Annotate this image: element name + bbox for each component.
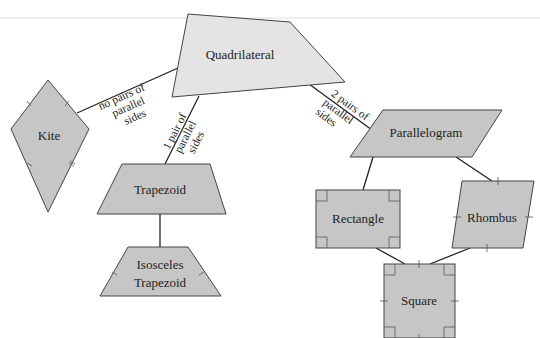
parallelogram-label: Parallelogram bbox=[390, 125, 463, 140]
node-parallelogram: Parallelogram bbox=[350, 110, 502, 157]
node-kite: Kite bbox=[11, 80, 89, 212]
edge-parallelogram-rhombus bbox=[456, 157, 492, 181]
node-quadrilateral: Quadrilateral bbox=[172, 14, 345, 97]
rectangle-label: Rectangle bbox=[332, 211, 384, 226]
edge-label-no-pairs: no pairs of parallel sides bbox=[96, 81, 156, 134]
kite-label: Kite bbox=[38, 128, 61, 143]
node-isosceles-trapezoid: Isosceles Trapezoid bbox=[100, 247, 221, 296]
rhombus-label: Rhombus bbox=[467, 210, 517, 225]
isosceles-label-line1: Isosceles bbox=[137, 257, 184, 272]
edge-label-one-pair: 1 pair of parallel sides bbox=[160, 111, 210, 162]
square-label: Square bbox=[401, 293, 437, 308]
quadrilateral-hierarchy-diagram: Quadrilateral Kite Trapezoid Isosceles T… bbox=[0, 0, 540, 338]
edge-parallelogram-rectangle bbox=[363, 157, 373, 190]
node-trapezoid: Trapezoid bbox=[97, 164, 226, 214]
node-rectangle: Rectangle bbox=[316, 190, 400, 248]
quadrilateral-label: Quadrilateral bbox=[206, 47, 275, 62]
trapezoid-label: Trapezoid bbox=[134, 182, 187, 197]
node-square: Square bbox=[380, 260, 459, 338]
edge-rhombus-square bbox=[430, 248, 470, 264]
isosceles-label-line2: Trapezoid bbox=[134, 275, 187, 290]
edge-rectangle-square bbox=[376, 248, 405, 264]
node-rhombus: Rhombus bbox=[452, 177, 534, 252]
